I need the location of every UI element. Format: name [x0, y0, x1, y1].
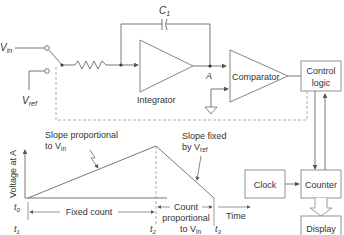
svg-text:to Vin: to Vin	[180, 224, 201, 235]
vref-input: Vref	[22, 69, 49, 107]
svg-text:t0: t0	[14, 202, 21, 213]
svg-text:t2: t2	[150, 224, 157, 235]
svg-text:Time: Time	[226, 211, 246, 221]
vin-input: Vin	[0, 42, 49, 54]
svg-text:C1: C1	[159, 5, 170, 17]
svg-text:Vref: Vref	[22, 95, 38, 107]
dual-slope-adc-diagram: Vin Vref C1 Integrator A Comparator	[0, 0, 344, 235]
svg-text:Display: Display	[306, 224, 336, 234]
integrator: Integrator	[137, 40, 193, 105]
svg-text:Counter: Counter	[305, 180, 337, 190]
display-block: Display	[301, 216, 341, 235]
ground-icon	[205, 89, 228, 114]
counter-block: Counter	[301, 170, 341, 198]
voltage-time-graph: Voltage at A Slope proportional to Vin S…	[8, 130, 250, 235]
data-bus-arrow	[310, 198, 332, 216]
svg-text:Count: Count	[174, 202, 199, 212]
svg-text:Integrator: Integrator	[137, 95, 176, 105]
svg-text:Voltage at A: Voltage at A	[8, 150, 18, 198]
svg-text:Vin: Vin	[0, 42, 12, 54]
svg-text:Fixed count: Fixed count	[66, 207, 113, 217]
clock-block: Clock	[245, 170, 285, 198]
control-logic-block: Control logic	[301, 61, 341, 91]
svg-text:t1: t1	[14, 224, 20, 235]
svg-text:t3: t3	[215, 224, 222, 235]
svg-text:Comparator: Comparator	[232, 72, 280, 82]
svg-text:Clock: Clock	[254, 180, 277, 190]
svg-text:to Vin: to Vin	[45, 141, 66, 152]
svg-text:Control: Control	[306, 66, 335, 76]
svg-text:Slope proportional: Slope proportional	[45, 130, 118, 140]
node-a-label: A	[205, 71, 212, 81]
svg-text:by Vref: by Vref	[182, 142, 208, 153]
svg-text:proportional: proportional	[162, 213, 210, 223]
comparator: Comparator	[230, 50, 288, 102]
switch	[49, 50, 61, 64]
resistor	[62, 61, 138, 69]
svg-text:logic: logic	[312, 78, 331, 88]
svg-text:Slope fixed: Slope fixed	[182, 131, 227, 141]
